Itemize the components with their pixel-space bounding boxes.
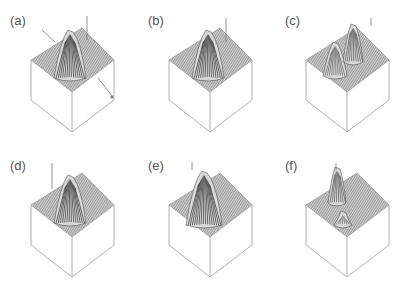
surface-plot: [138, 0, 274, 144]
panel-d: (d): [0, 145, 136, 289]
panel-e: (e): [138, 145, 274, 289]
panel-b: (b): [138, 0, 274, 144]
surface-plot: [138, 145, 274, 289]
panel-c: (c): [275, 0, 410, 144]
surface-plot: [275, 145, 410, 289]
panel-f: (f): [275, 145, 410, 289]
surface-plot: [0, 145, 136, 289]
surface-plot: [275, 0, 410, 144]
panel-a: (a): [0, 0, 136, 144]
surface-plot: [0, 0, 136, 144]
